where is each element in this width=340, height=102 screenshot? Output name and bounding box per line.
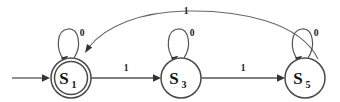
edge-label-self-loop-s3: 0 [190, 28, 195, 38]
self-loop-s1-path [58, 29, 78, 61]
transition-s3-to-s5-arrowhead [277, 74, 285, 81]
start-arrow-head [42, 74, 50, 81]
transition-s5-to-s1-path [89, 11, 318, 59]
state-s3-subscript: 3 [182, 79, 187, 90]
transition-s5-to-s1-arrowhead [85, 44, 92, 53]
state-s1-label: S [59, 69, 68, 88]
transition-s5-to-s1 [85, 11, 318, 59]
transition-s1-to-s3-arrowhead [153, 74, 161, 81]
state-s5-outer-circle [285, 58, 325, 98]
edge-label-self-loop-s1: 0 [80, 28, 85, 38]
self-loop-s3-path [168, 29, 188, 61]
state-node-s1[interactable]: S 1 [51, 58, 91, 98]
state-machine-diagram: S 1 S 3 S 5 0 0 0 1 1 1 [0, 0, 340, 102]
start-arrow [12, 74, 50, 81]
edge-label-s5-to-s1: 1 [184, 6, 189, 16]
state-s3-outer-circle [161, 58, 201, 98]
state-s3-label: S [169, 69, 178, 88]
transition-s3-to-s5 [201, 74, 285, 81]
diagram-canvas: S 1 S 3 S 5 0 0 0 1 1 1 [0, 0, 340, 102]
transition-s1-to-s3 [91, 74, 161, 81]
state-s5-subscript: 5 [306, 79, 311, 90]
state-s1-subscript: 1 [72, 79, 77, 90]
state-s5-label: S [293, 69, 302, 88]
edge-label-s1-to-s3: 1 [124, 63, 129, 73]
state-node-s5[interactable]: S 5 [285, 58, 325, 98]
edge-label-self-loop-s5: 0 [314, 28, 319, 38]
state-node-s3[interactable]: S 3 [161, 58, 201, 98]
edge-label-s3-to-s5: 1 [241, 63, 246, 73]
